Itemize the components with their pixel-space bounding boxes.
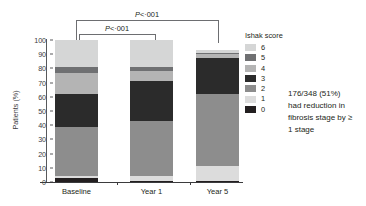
y-tick-10: 10 bbox=[0, 163, 50, 172]
legend-label-score-2: 2 bbox=[261, 85, 265, 92]
bar-segment-score-1 bbox=[196, 166, 239, 180]
legend-swatch-score-6 bbox=[245, 44, 256, 51]
y-tick-mark bbox=[50, 54, 53, 55]
y-tick-20: 20 bbox=[0, 149, 50, 158]
bar-segment-score-2 bbox=[130, 121, 173, 176]
x-axis-label-year-5: Year 5 bbox=[207, 187, 229, 196]
y-tick-70: 70 bbox=[0, 78, 50, 87]
bar-segment-score-4 bbox=[130, 71, 173, 81]
bar-segment-score-0 bbox=[130, 181, 173, 182]
side-annotation-line-1: 176/348 (51%) bbox=[288, 88, 366, 100]
figure-stacked-bar-ishak-score: Patients (%) 0102030405060708090100 Base… bbox=[0, 0, 366, 206]
y-tick-mark bbox=[50, 111, 53, 112]
legend-label-score-3: 3 bbox=[261, 75, 265, 82]
bar-segment-score-2 bbox=[55, 127, 98, 177]
bar-segment-score-6 bbox=[196, 50, 239, 53]
bar-segment-score-0 bbox=[55, 178, 98, 182]
bracket-right-arm bbox=[218, 20, 219, 43]
bar-segment-score-4 bbox=[55, 73, 98, 94]
y-tick-50: 50 bbox=[0, 107, 50, 116]
legend-label-score-5: 5 bbox=[261, 54, 265, 61]
side-annotation-line-2: had reduction in bbox=[288, 100, 366, 112]
bar-segment-score-4 bbox=[196, 54, 239, 58]
y-tick-30: 30 bbox=[0, 135, 50, 144]
bracket-top-line bbox=[76, 20, 219, 21]
legend-label-score-1: 1 bbox=[261, 95, 265, 102]
x-axis-label-year-1: Year 1 bbox=[141, 187, 163, 196]
side-annotation: 176/348 (51%) had reduction in fibrosis … bbox=[288, 88, 366, 136]
bar-segment-score-3 bbox=[130, 81, 173, 121]
bar-segment-score-1 bbox=[55, 176, 98, 177]
y-tick-mark bbox=[50, 96, 53, 97]
legend-swatch-score-5 bbox=[245, 54, 256, 61]
x-axis-line bbox=[40, 182, 243, 183]
legend-swatch-score-3 bbox=[245, 75, 256, 82]
bar-segment-score-6 bbox=[55, 40, 98, 67]
legend-label-score-0: 0 bbox=[261, 106, 265, 113]
p-rest-inner: <·001 bbox=[110, 24, 129, 33]
bracket-left-arm bbox=[76, 20, 77, 40]
y-tick-mark bbox=[50, 40, 53, 41]
x-tick-1 bbox=[190, 182, 191, 185]
bracket-top-line bbox=[79, 34, 156, 35]
bar-segment-score-5 bbox=[130, 67, 173, 71]
bar-baseline bbox=[55, 40, 98, 182]
y-tick-100: 100 bbox=[0, 36, 50, 45]
side-annotation-line-3: fibrosis stage by ≥ bbox=[288, 112, 366, 124]
y-tick-90: 90 bbox=[0, 50, 50, 59]
legend-swatch-score-2 bbox=[245, 85, 256, 92]
y-tick-mark bbox=[50, 153, 53, 154]
y-tick-40: 40 bbox=[0, 121, 50, 130]
y-tick-mark bbox=[50, 68, 53, 69]
side-annotation-line-4: 1 stage bbox=[288, 124, 366, 136]
bar-segment-score-5 bbox=[196, 53, 239, 54]
y-tick-80: 80 bbox=[0, 64, 50, 73]
legend-item-score-5: 5 bbox=[245, 53, 305, 63]
bracket-right-arm bbox=[155, 34, 156, 40]
bar-segment-score-5 bbox=[55, 67, 98, 73]
bar-segment-score-1 bbox=[130, 176, 173, 180]
legend-item-score-4: 4 bbox=[245, 63, 305, 73]
legend-title: Ishak score bbox=[245, 31, 305, 40]
legend-item-score-3: 3 bbox=[245, 73, 305, 83]
p-value-label-inner: P<·001 bbox=[105, 24, 129, 33]
legend-swatch-score-1 bbox=[245, 96, 256, 103]
bracket-left-arm bbox=[79, 34, 80, 40]
bar-segment-score-3 bbox=[196, 58, 239, 94]
legend-label-score-4: 4 bbox=[261, 65, 265, 72]
y-tick-mark bbox=[50, 82, 53, 83]
p-rest-outer: <·001 bbox=[140, 10, 159, 19]
bar-segment-score-6 bbox=[130, 40, 173, 67]
y-tick-60: 60 bbox=[0, 92, 50, 101]
y-tick-mark bbox=[50, 167, 53, 168]
bar-segment-score-3 bbox=[55, 94, 98, 127]
y-tick-mark bbox=[50, 125, 53, 126]
x-tick-0 bbox=[117, 182, 118, 185]
y-tick-mark bbox=[50, 139, 53, 140]
p-value-label-outer: P<·001 bbox=[135, 10, 159, 19]
x-axis-label-baseline: Baseline bbox=[62, 187, 91, 196]
bar-year-5 bbox=[196, 40, 239, 182]
bar-year-1 bbox=[130, 40, 173, 182]
legend-item-score-6: 6 bbox=[245, 43, 305, 53]
legend-swatch-score-0 bbox=[245, 106, 256, 113]
bar-segment-score-2 bbox=[196, 94, 239, 166]
legend-label-score-6: 6 bbox=[261, 44, 265, 51]
legend-swatch-score-4 bbox=[245, 65, 256, 72]
bar-segment-score-0 bbox=[196, 181, 239, 182]
